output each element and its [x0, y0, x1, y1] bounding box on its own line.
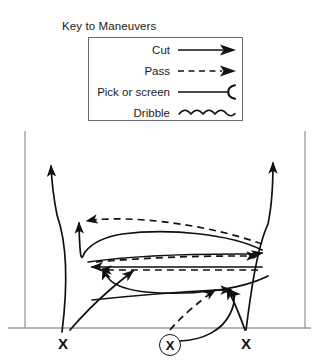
play-diagram: Key to Maneuvers Cut Pass Pick or screen [0, 0, 314, 363]
player-marker-left: X [58, 336, 68, 351]
player-marker-right: X [241, 336, 251, 351]
cut-left-wing-up [51, 166, 66, 332]
cut-baseline-left-diagonal [70, 271, 133, 330]
player-marker-ballhandler: X [159, 334, 181, 356]
cut-right-player-up [227, 289, 245, 330]
cut-right-wing-up [246, 163, 273, 330]
cut-ballhandler-curl-right [180, 290, 234, 341]
cut-paths [51, 163, 273, 341]
pass-ballhandler-to-post [170, 290, 215, 330]
cut-upper-loop-to-left [79, 223, 262, 257]
cut-lower-loop-to-left [103, 269, 268, 293]
court-canvas [0, 0, 314, 363]
